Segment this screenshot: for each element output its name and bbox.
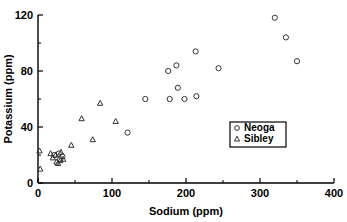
y-tick-label: 40 [21, 121, 33, 133]
data-point-circle [193, 49, 198, 54]
data-point-circle [167, 96, 172, 101]
axes-group [38, 15, 334, 183]
x-axis-tick-labels: 0100200300400 [35, 187, 343, 199]
scatter-plot-figure: 0100200300400 04080120 Sodium (ppm) Pota… [0, 0, 347, 222]
x-axis-ticks [38, 178, 334, 183]
x-tick-label: 200 [177, 187, 195, 199]
y-tick-label: 80 [21, 65, 33, 77]
data-point-circle [166, 68, 171, 73]
data-point-circle [174, 63, 179, 68]
y-axis-ticks [38, 15, 43, 183]
legend-entry-label: Neoga [244, 122, 275, 133]
data-point-triangle [90, 137, 95, 142]
x-tick-label: 400 [325, 187, 343, 199]
data-point-circle [294, 59, 299, 64]
x-axis-title: Sodium (ppm) [149, 205, 223, 217]
data-point-circle [182, 96, 187, 101]
data-point-triangle [113, 119, 118, 124]
data-point-circle [272, 15, 277, 20]
y-tick-label: 0 [27, 177, 33, 189]
x-tick-label: 300 [251, 187, 269, 199]
data-point-circle [143, 96, 148, 101]
data-point-triangle [69, 142, 74, 147]
data-point-triangle [97, 100, 102, 105]
y-tick-label: 120 [15, 9, 33, 21]
y-axis-title: Potassium (ppm) [2, 54, 14, 144]
x-tick-label: 100 [103, 187, 121, 199]
data-point-circle [194, 94, 199, 99]
plot-canvas: 0100200300400 04080120 Sodium (ppm) Pota… [0, 0, 347, 222]
data-point-triangle [79, 116, 84, 121]
y-axis-tick-labels: 04080120 [15, 9, 33, 189]
legend-entry-label: Sibley [244, 133, 274, 144]
x-tick-label: 0 [35, 187, 41, 199]
data-point-circle [175, 85, 180, 90]
data-series-sibley [37, 100, 119, 171]
data-point-circle [216, 66, 221, 71]
legend: NeogaSibley [230, 122, 286, 147]
data-point-circle [125, 130, 130, 135]
data-point-circle [283, 35, 288, 40]
